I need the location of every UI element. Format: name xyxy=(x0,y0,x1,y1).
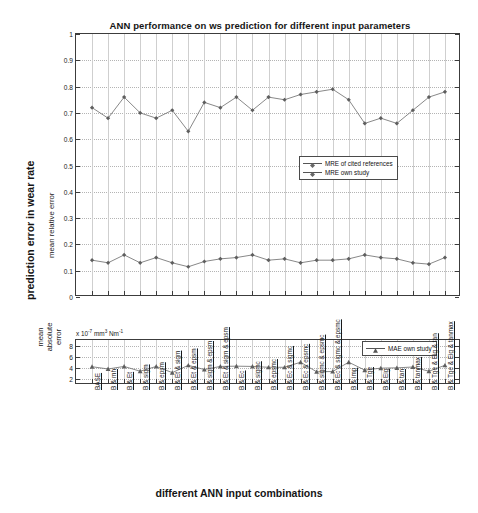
data-point-marker xyxy=(90,258,94,262)
legend-label: MRE own study xyxy=(325,168,369,177)
data-point-marker xyxy=(154,364,159,368)
data-point-marker xyxy=(427,262,431,266)
data-point-marker xyxy=(106,261,110,265)
y-tick-label: 0.5 xyxy=(64,162,73,169)
x-axis-label: different ANN input combinations xyxy=(0,487,478,499)
data-point-marker xyxy=(250,253,254,257)
y-axis-label-bottom-line3: error xyxy=(54,329,63,345)
legend-marker-diamond-icon xyxy=(303,169,322,176)
data-point-marker xyxy=(379,255,383,259)
data-point-marker xyxy=(347,257,351,261)
data-point-marker xyxy=(411,261,415,265)
y-tick-mark xyxy=(455,297,459,298)
legend-bottom-panel[interactable]: MAE own study xyxy=(362,341,437,356)
legend-item[interactable]: MRE of cited references xyxy=(303,159,393,168)
legend-item[interactable]: MAE own study xyxy=(366,344,432,353)
y-tick-label: 0.7 xyxy=(64,109,73,116)
sci-exponent: -7 xyxy=(88,329,92,334)
y-axis-label-bottom-line1: mean xyxy=(36,328,45,347)
top-panel-series xyxy=(76,34,461,297)
data-point-marker xyxy=(443,90,447,94)
data-point-marker xyxy=(218,257,222,261)
data-point-marker xyxy=(122,253,126,257)
sci-prefix: x 10 xyxy=(76,330,88,337)
data-point-marker xyxy=(315,258,319,262)
y-axis-label-bottom-panel: mean absolute error xyxy=(30,336,60,382)
data-point-marker xyxy=(331,258,335,262)
sci-unit-b: Nm xyxy=(109,330,119,337)
legend-marker-triangle-icon xyxy=(366,345,385,352)
data-point-marker xyxy=(202,259,206,263)
data-point-marker xyxy=(202,100,206,104)
y-tick-label: 4 xyxy=(69,365,73,372)
y-tick-label: 0.2 xyxy=(64,241,73,248)
y-tick-label: 6 xyxy=(69,353,73,360)
y-axis-label-bottom-line2: absolute xyxy=(45,323,54,352)
y-tick-label: 0.4 xyxy=(64,188,73,195)
y-tick-label: 0.1 xyxy=(64,267,73,274)
data-point-marker xyxy=(234,255,238,259)
y-tick-label: 0.3 xyxy=(64,215,73,222)
y-tick-mark xyxy=(76,297,80,298)
chart-title: ANN performance on ws prediction for dif… xyxy=(60,20,460,31)
y-tick-label: 8 xyxy=(69,342,73,349)
y-tick-label: 0.6 xyxy=(64,136,73,143)
data-point-marker xyxy=(379,116,383,120)
y-tick-label: 1 xyxy=(69,31,73,38)
y-tick-label: 0 xyxy=(69,294,73,301)
legend-label: MAE own study xyxy=(388,344,432,353)
data-point-marker xyxy=(363,253,367,257)
y-tick-label: 2 xyxy=(69,376,73,383)
data-point-marker xyxy=(170,261,174,265)
legend-top-panel[interactable]: MRE of cited references MRE own study xyxy=(299,156,398,180)
data-point-marker xyxy=(298,92,302,96)
data-point-marker xyxy=(186,265,190,269)
data-point-marker xyxy=(443,363,448,367)
legend-label: MRE of cited references xyxy=(325,159,393,168)
axis-scale-annotation: x 10-7 mm3 Nm-1 xyxy=(76,329,123,337)
y-tick-label: 0.8 xyxy=(64,83,73,90)
data-point-marker xyxy=(346,360,351,364)
data-point-marker xyxy=(443,255,447,259)
data-point-marker xyxy=(282,98,286,102)
data-point-marker xyxy=(298,360,303,364)
data-point-marker xyxy=(395,257,399,261)
sci-unit-b-exp: -1 xyxy=(119,329,123,334)
data-point-marker xyxy=(266,258,270,262)
y-tick-label: 0.9 xyxy=(64,57,73,64)
sci-unit-a-exp: 3 xyxy=(105,329,108,334)
data-point-marker xyxy=(186,363,191,367)
y-axis-label-top-panel: mean relative error xyxy=(47,193,56,258)
data-point-marker xyxy=(298,261,302,265)
data-point-marker xyxy=(154,255,158,259)
sci-unit-a: mm xyxy=(94,330,105,337)
data-point-marker xyxy=(282,257,286,261)
y-axis-outer-label: prediction error in wear rate xyxy=(24,161,36,300)
legend-item[interactable]: MRE own study xyxy=(303,168,393,177)
legend-marker-diamond-icon xyxy=(303,160,322,167)
top-plot-panel: 00.10.20.30.40.50.60.70.80.91 xyxy=(75,33,460,296)
data-point-marker xyxy=(154,116,158,120)
data-point-marker xyxy=(315,90,319,94)
data-point-marker xyxy=(138,261,142,265)
